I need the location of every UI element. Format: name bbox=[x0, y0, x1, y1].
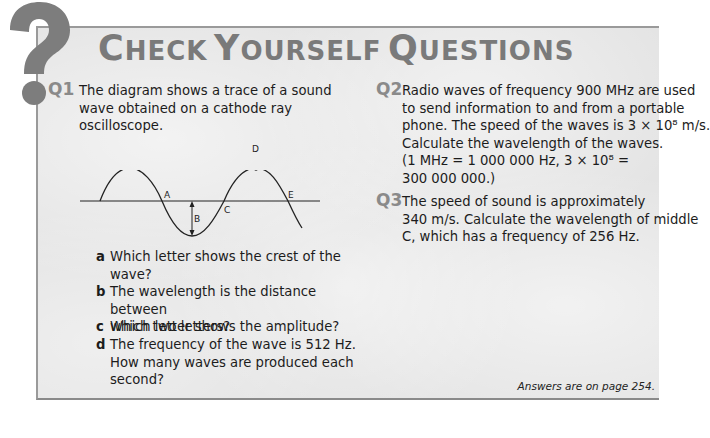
part-letter: a bbox=[96, 248, 105, 266]
part-letter: b bbox=[96, 283, 105, 301]
answers-note: Answers are on page 254. bbox=[518, 380, 655, 392]
question-text-line: C, which has a frequency of 256 Hz. bbox=[402, 228, 662, 246]
question-text-line: (1 MHz = 1 000 000 Hz, 3 × 10⁸ = bbox=[402, 152, 662, 170]
question-text-line: The diagram shows a trace of a sound bbox=[79, 82, 349, 100]
part-letter: d bbox=[96, 336, 105, 354]
wave-label-d: D bbox=[252, 144, 259, 154]
part-text-line: Which letter shows the amplitude? bbox=[110, 318, 339, 336]
question-number: Q2 bbox=[376, 81, 402, 99]
title-word-1: CHECK bbox=[98, 45, 207, 64]
part-letter: c bbox=[96, 318, 104, 336]
question-text-line: wave obtained on a cathode ray bbox=[79, 100, 349, 118]
question-text-line: Radio waves of frequency 900 MHz are use… bbox=[402, 82, 662, 100]
title-word-2: YOURSELF bbox=[214, 45, 381, 64]
part-text-line: wave? bbox=[110, 266, 341, 284]
wave-label-b: B bbox=[194, 214, 200, 224]
question-text-line: The speed of sound is approximately bbox=[402, 193, 662, 211]
part-text-line: second? bbox=[110, 371, 356, 389]
wave-label-c: C bbox=[224, 205, 230, 215]
question-text-line: to send information to and from a portab… bbox=[402, 100, 662, 118]
part-text-line: How many waves are produced each bbox=[110, 354, 356, 372]
part-text-line: The frequency of the wave is 512 Hz. bbox=[110, 336, 356, 354]
page-title: CHECK YOURSELF QUESTIONS bbox=[98, 28, 574, 68]
part-text-line: The wavelength is the distance between bbox=[110, 283, 356, 318]
question-number: Q3 bbox=[376, 192, 402, 210]
sine-wave-diagram: A B C E bbox=[80, 170, 330, 250]
question-text-line: phone. The speed of the waves is 3 × 10⁸… bbox=[402, 117, 662, 135]
title-word-3: QUESTIONS bbox=[388, 45, 574, 64]
wave-label-a: A bbox=[164, 190, 171, 200]
question-text-line: 300 000 000.) bbox=[402, 170, 662, 188]
wave-label-e: E bbox=[288, 190, 294, 200]
question-text-line: 340 m/s. Calculate the wavelength of mid… bbox=[402, 211, 662, 229]
question-text-line: Calculate the wavelength of the waves. bbox=[402, 135, 662, 153]
part-text-line: Which letter shows the crest of the bbox=[110, 248, 341, 266]
question-number: Q1 bbox=[48, 81, 74, 99]
question-text-line: oscilloscope. bbox=[79, 117, 349, 135]
